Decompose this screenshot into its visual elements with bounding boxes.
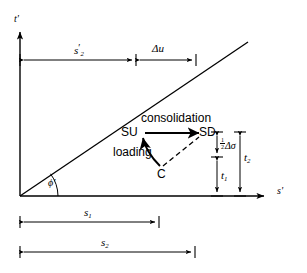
dim-label-s1: s1 [84,207,92,220]
stress-path-figure: t' s' ϕ' s′2 Δu consolidation loading SU… [0,0,307,273]
dim-label-half-delta-sigma: 12Δσ [220,137,236,151]
consolidation-label: consolidation [141,112,211,124]
dim-label-t1: t1 [221,170,227,183]
loading-label: loading [113,146,152,158]
dim-label-t2: t2 [244,152,250,165]
point-label-c: C [157,168,166,180]
dim-label-s2-prime: s′2 [74,43,84,58]
x-axis-label: s' [277,186,283,196]
c-to-sd-dashed-line [163,137,199,166]
point-label-su: SU [121,126,138,138]
diagram-canvas [0,0,307,273]
top-dimension-group [20,54,196,66]
dim-label-s2: s2 [101,237,109,250]
phi-angle-label: ϕ' [48,178,55,188]
failure-line [20,42,248,196]
point-label-sd: SD [199,126,216,138]
dim-label-delta-u: Δu [152,43,164,54]
y-axis-label: t' [14,14,19,24]
